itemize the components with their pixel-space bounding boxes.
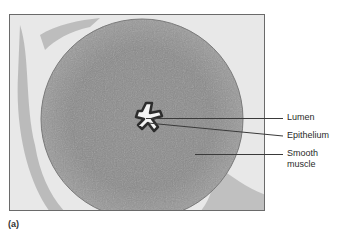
label-smooth-muscle: Smooth muscle bbox=[287, 148, 318, 170]
label-lumen: Lumen bbox=[287, 112, 315, 123]
panel-label: (a) bbox=[8, 219, 19, 229]
label-epithelium: Epithelium bbox=[287, 130, 329, 141]
label-smooth-muscle-line2: muscle bbox=[287, 159, 318, 170]
smooth-muscle-leader-line bbox=[195, 154, 283, 155]
label-smooth-muscle-line1: Smooth bbox=[287, 148, 318, 159]
